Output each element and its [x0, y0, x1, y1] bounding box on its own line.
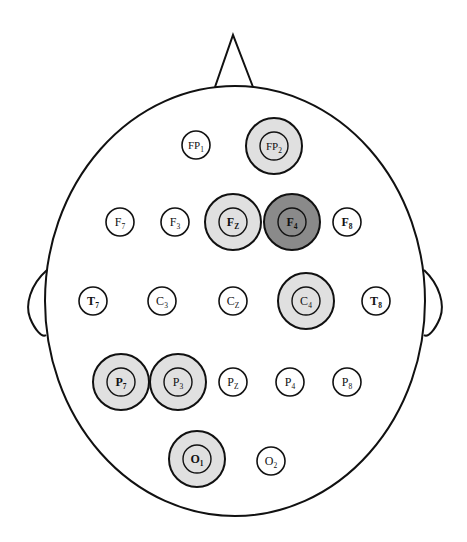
- electrode-c3: C3: [148, 287, 176, 315]
- electrode-f8: F8: [333, 208, 361, 236]
- electrode-cz: CZ: [219, 287, 247, 315]
- electrode-p3: P3: [150, 354, 206, 410]
- electrode-pz: PZ: [219, 368, 247, 396]
- eeg-head-diagram: FP1FP2F7F3FZF4F8T7C3CZC4T8P7P3PZP4P8O1O2: [0, 0, 467, 542]
- electrode-f3: F3: [161, 208, 189, 236]
- electrode-fz: FZ: [205, 194, 261, 250]
- electrode-t8: T8: [362, 287, 390, 315]
- electrode-p4: P4: [276, 368, 304, 396]
- electrode-f4: F4: [264, 194, 320, 250]
- electrode-f7: F7: [106, 208, 134, 236]
- electrode-o2: O2: [257, 447, 285, 475]
- electrode-fp1: FP1: [182, 131, 210, 159]
- electrode-c4: C4: [278, 273, 334, 329]
- electrode-layer: FP1FP2F7F3FZF4F8T7C3CZC4T8P7P3PZP4P8O1O2: [79, 118, 390, 487]
- electrode-p7: P7: [93, 354, 149, 410]
- electrode-o1: O1: [169, 431, 225, 487]
- electrode-fp2: FP2: [246, 118, 302, 174]
- nose-triangle: [215, 35, 253, 87]
- electrode-p8: P8: [333, 368, 361, 396]
- head-outline-group: [28, 35, 442, 516]
- right-ear-shape: [424, 270, 442, 336]
- electrode-t7: T7: [79, 287, 107, 315]
